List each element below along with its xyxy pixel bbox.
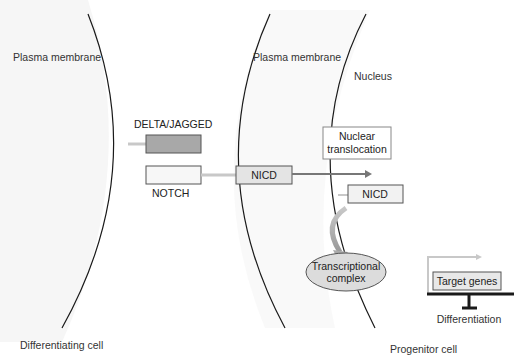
nuclear-translocation-line1: Nuclear [339, 130, 376, 142]
nicd-nucleus-label: NICD [362, 188, 388, 200]
notch-signaling-diagram: Plasma membrane Plasma membrane Nucleus … [0, 0, 526, 361]
plasma-membrane-left-label: Plasma membrane [13, 51, 101, 63]
transcription-start-arrowhead-icon [476, 254, 482, 260]
nucleus-label: Nucleus [354, 70, 392, 82]
progenitor-cell-label: Progenitor cell [390, 343, 457, 355]
translocation-arrowhead-icon [365, 170, 372, 178]
nicd-membrane-label: NICD [251, 169, 277, 181]
differentiation-label: Differentiation [437, 313, 502, 325]
nuclear-translocation-line2: translocation [327, 143, 387, 155]
plasma-membrane-right-label: Plasma membrane [253, 51, 341, 63]
notch-label: NOTCH [152, 187, 189, 199]
delta-jagged-box [146, 135, 201, 153]
transcriptional-complex-line1: Transcriptional [312, 260, 380, 272]
target-genes-label: Target genes [437, 275, 498, 287]
differentiating-cell-label: Differentiating cell [20, 339, 103, 351]
transcriptional-complex-line2: complex [326, 272, 366, 284]
delta-jagged-label: DELTA/JAGGED [134, 118, 213, 130]
notch-box [146, 166, 201, 184]
